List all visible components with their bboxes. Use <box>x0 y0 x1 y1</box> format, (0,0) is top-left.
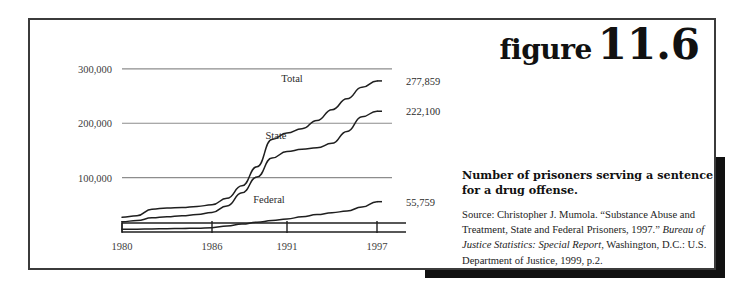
chart-series-labels: TotalStateFederal <box>253 73 303 205</box>
y-tick-label: 200,000 <box>78 118 112 129</box>
chart-x-tick-labels: 1980198619911997 <box>112 241 388 252</box>
figure-number-label: 11.6 <box>598 26 700 64</box>
chart-x-axis <box>122 221 406 233</box>
end-value-federal: 55,759 <box>406 197 435 208</box>
end-value-total: 277,859 <box>406 76 440 87</box>
caption-source: Source: Christopher J. Mumola. “Substanc… <box>462 207 718 268</box>
chart-end-value-labels: 277,859222,10055,759 <box>406 76 440 208</box>
chart-gridlines <box>122 69 392 178</box>
figure-shadow-bottom <box>425 270 720 278</box>
end-value-state: 222,100 <box>406 106 440 117</box>
x-tick-label: 1991 <box>277 241 298 252</box>
chart-y-tick-labels: 100,000200,000300,000 <box>78 64 112 184</box>
line-chart: 100,000200,000300,000 1980198619911997 T… <box>64 42 454 272</box>
caption-title: Number of prisoners serving a sentence f… <box>462 168 718 198</box>
figure-container: figure 11.6 100,000200,000300,000 198019… <box>0 0 753 295</box>
caption-source-prefix: Source: Christopher J. Mumola. “Substanc… <box>462 209 695 235</box>
x-tick-label: 1980 <box>112 241 133 252</box>
series-label-total: Total <box>281 73 303 84</box>
caption-block: Number of prisoners serving a sentence f… <box>462 168 718 268</box>
x-tick-label: 1986 <box>202 241 223 252</box>
figure-word-label: figure <box>500 33 592 66</box>
figure-number-block: figure 11.6 <box>500 26 700 66</box>
series-line-federal <box>122 202 377 230</box>
chart-series-lines <box>122 81 382 229</box>
series-line-total <box>122 81 377 217</box>
y-tick-label: 300,000 <box>78 64 112 75</box>
y-tick-label: 100,000 <box>78 173 112 184</box>
series-label-federal: Federal <box>253 194 285 205</box>
x-tick-label: 1997 <box>367 241 388 252</box>
series-label-state: State <box>266 130 287 141</box>
chart-svg: 100,000200,000300,000 1980198619911997 T… <box>64 42 454 272</box>
series-line-state <box>122 111 377 221</box>
figure-frame: figure 11.6 100,000200,000300,000 198019… <box>28 18 716 270</box>
